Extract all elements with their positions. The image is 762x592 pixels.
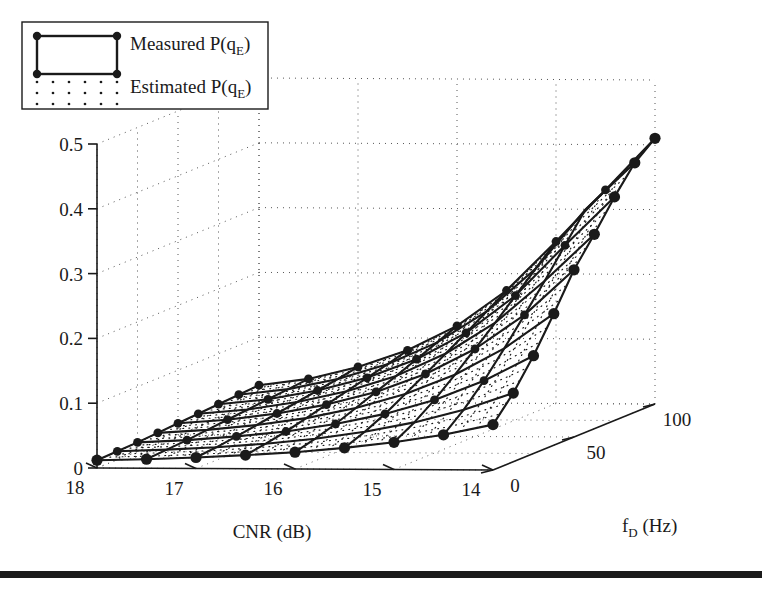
- y-tick-label: 0: [510, 475, 520, 496]
- z-tick-label: 0.1: [59, 393, 83, 414]
- y-tick-label: 100: [663, 409, 692, 430]
- figure-3d-surface-plot: 0 0.1 0.2 0.3 0.4 0.5 18 17 16 15 14 0 5…: [0, 0, 762, 592]
- z-tick-label: 0.5: [59, 134, 83, 155]
- estimated-surface-mesh: [97, 138, 655, 460]
- z-tick-label: 0: [74, 458, 84, 479]
- measured-surface-mesh: [97, 138, 655, 460]
- z-tick-label: 0.4: [59, 199, 83, 220]
- x-tick-label: 17: [165, 478, 184, 499]
- x-tick-label: 18: [66, 477, 85, 498]
- axes-layer: [86, 144, 655, 473]
- x-axis-title: CNR (dB): [233, 521, 312, 543]
- plot-canvas: 0 0.1 0.2 0.3 0.4 0.5 18 17 16 15 14 0 5…: [0, 0, 762, 592]
- z-tick-label: 0.3: [59, 264, 83, 285]
- page-footer-rule: [0, 571, 762, 578]
- x-tick-label: 16: [264, 478, 283, 499]
- z-tick-label: 0.2: [59, 328, 83, 349]
- x-tick-label: 14: [462, 479, 482, 500]
- x-tick-label: 15: [363, 479, 382, 500]
- y-axis-title: fD (Hz): [622, 515, 677, 540]
- legend: Measured P(qE) Estimated P(qE): [22, 22, 268, 109]
- y-tick-label: 50: [587, 442, 606, 463]
